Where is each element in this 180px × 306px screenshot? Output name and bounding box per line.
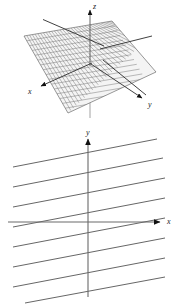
x-axis-label: x [166,217,171,226]
parallel-line-1 [13,139,157,167]
panel-2d-parallel-lines: x y [0,125,180,306]
figure-container: z x y [0,0,180,306]
svg-2d-plot: x y [0,125,180,306]
y-axis-label: y [85,128,90,137]
y-axis-label: y [147,100,152,109]
parallel-line-family [13,139,165,303]
z-axis-label: z [92,2,97,11]
x-axis-label: x [27,87,32,96]
panel-3d-coordinate-system: z x y [0,0,180,125]
svg-3d-plot: z x y [0,0,180,125]
